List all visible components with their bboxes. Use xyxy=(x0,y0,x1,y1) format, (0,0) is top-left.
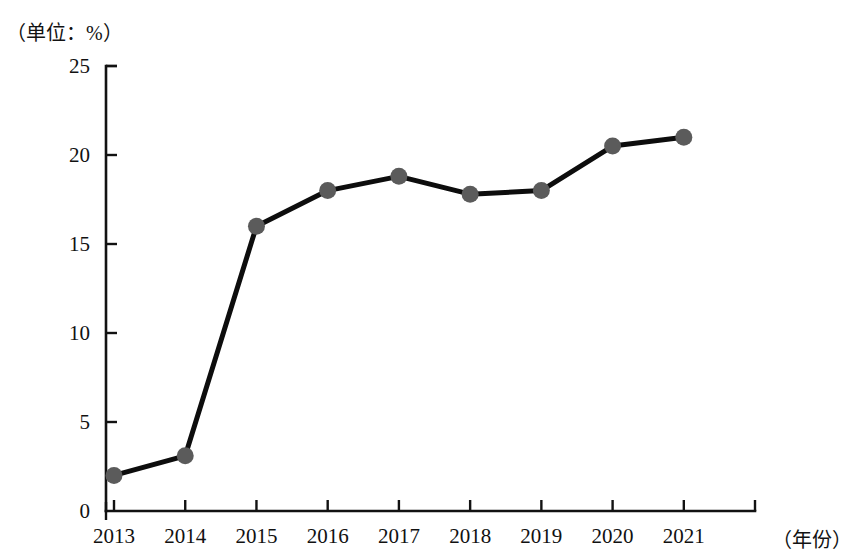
data-point-marker xyxy=(604,138,621,155)
chart-axes xyxy=(106,66,755,520)
data-point-marker xyxy=(462,186,479,203)
y-axis-tick-label: 5 xyxy=(44,410,90,435)
data-point-marker xyxy=(177,447,194,464)
x-axis-tick-label: 2021 xyxy=(641,524,727,549)
y-axis-tick-label: 20 xyxy=(44,143,90,168)
data-point-marker xyxy=(675,129,692,146)
y-axis-tick-label: 25 xyxy=(44,54,90,79)
data-point-marker xyxy=(248,218,265,235)
chart-series xyxy=(106,129,693,484)
data-point-marker xyxy=(533,182,550,199)
chart-plot-area xyxy=(0,0,859,555)
data-point-marker xyxy=(390,168,407,185)
data-point-marker xyxy=(106,467,123,484)
y-axis-tick-label: 0 xyxy=(44,499,90,524)
line-chart: （单位：%） （年份） 0510152025 20132014201520162… xyxy=(0,0,859,555)
y-axis-tick-label: 10 xyxy=(44,321,90,346)
data-point-marker xyxy=(319,182,336,199)
y-axis-tick-label: 15 xyxy=(44,232,90,257)
series-line xyxy=(114,137,684,475)
